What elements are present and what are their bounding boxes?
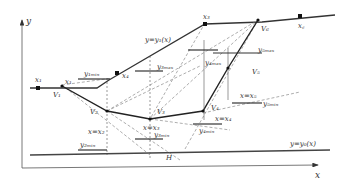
label-y4min: y₄ₘᵢₙ (198, 127, 214, 135)
label-V2: V₂ (90, 108, 98, 116)
upper-boundary-line (30, 15, 335, 88)
label-xc: x꜀ (298, 22, 305, 30)
marker-x4 (115, 71, 119, 75)
label-V1: V₁ (53, 91, 61, 99)
label-x1: x₁ (65, 78, 72, 86)
label-V6: V₆ (261, 25, 269, 33)
construction-lines (62, 20, 300, 160)
label-x-eq-x4: x=x₄ (215, 115, 232, 123)
lower-boundary-label: y=y₀(x) (289, 140, 316, 148)
marker-x1 (36, 86, 40, 90)
marker-x3 (203, 22, 207, 26)
x-axis-label: x (315, 170, 320, 180)
x-axis (22, 165, 318, 168)
label-x4: x₄ (122, 72, 129, 80)
label-x-eq-x5: x=x₅ (240, 92, 257, 100)
label-x-eq-x3: x=x₃ (143, 124, 160, 132)
marker-H: H (165, 154, 173, 162)
label-x-eq-x2: x=x₂ (88, 128, 105, 136)
marker-xc (298, 14, 302, 18)
label-x-left: x₁ (35, 76, 42, 84)
upper-boundary-label: y=y₁(x) (144, 36, 171, 44)
label-y2min: y₂ₘᵢₙ (79, 141, 95, 149)
label-y3min: y₃ₘᵢₙ (153, 131, 169, 139)
label-V5: V₅ (252, 68, 260, 76)
diagram-canvas: y x y=y₁(x) y=y₀(x) x₁ x₁ x₄ x₃ x꜀ V₁ V₂… (0, 0, 352, 185)
label-y5min: y₅ₘᵢₙ (262, 100, 278, 108)
y-axis-label: y (25, 16, 32, 26)
label-y3max: y₃ₘₐₓ (156, 63, 174, 71)
label-y5max: y₅ₘₐₓ (257, 46, 275, 54)
label-y1min: y₁ₘᵢₙ (83, 70, 99, 78)
label-V3: V₃ (157, 108, 165, 116)
label-V4: V₄ (211, 104, 219, 112)
label-y4max: y₄ₘₐₓ (204, 59, 222, 67)
label-x3: x₃ (203, 13, 210, 21)
lower-boundary-line (30, 150, 330, 155)
